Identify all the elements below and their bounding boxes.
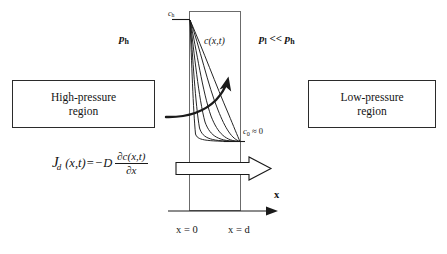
equation-numerator: ∂c(x,t) bbox=[115, 150, 147, 164]
low-pressure-region-text: Low-pressure region bbox=[340, 90, 403, 118]
equation-coefficient: −D bbox=[95, 156, 112, 170]
low-pressure-region-box: Low-pressure region bbox=[308, 80, 436, 128]
high-pressure-region-text: High-pressure region bbox=[51, 90, 116, 118]
equation-arguments: (x,t) bbox=[65, 156, 85, 170]
label-high-pressure-symbol: ph bbox=[119, 32, 129, 47]
flux-block-arrow-outline bbox=[176, 157, 271, 180]
c0-value: 0 bbox=[259, 126, 263, 136]
ch-subscript: h bbox=[172, 12, 175, 18]
time-arrow-head bbox=[220, 77, 232, 92]
equation-equals: = bbox=[87, 156, 94, 170]
label-concentration-profile: c(x,t) bbox=[204, 35, 225, 46]
label-x-axis-name: x bbox=[274, 189, 279, 201]
label-axis-tick-xd: x = d bbox=[228, 224, 250, 236]
diffusion-diagram: High-pressure region Low-pressure region… bbox=[0, 0, 447, 254]
equation-denominator: ∂x bbox=[124, 164, 138, 177]
label-low-pressure-relation: pl << ph bbox=[259, 32, 295, 47]
x-axis-arrowhead bbox=[266, 207, 278, 216]
low-pressure-line2: region bbox=[357, 105, 386, 117]
ph-subscript: h bbox=[125, 37, 129, 46]
high-pressure-region-box: High-pressure region bbox=[12, 80, 155, 128]
flux-equation: Jd(x,t) = −D ∂c(x,t) ∂x bbox=[52, 150, 148, 177]
label-surface-concentration-high: ch bbox=[168, 10, 174, 19]
high-pressure-line2: region bbox=[69, 105, 98, 117]
label-surface-concentration-low: c0 ≈ 0 bbox=[243, 127, 263, 137]
label-axis-tick-x0: x = 0 bbox=[176, 224, 198, 236]
flux-block-arrow bbox=[176, 157, 271, 180]
pl-subscript: l bbox=[265, 37, 267, 46]
equation-fraction: ∂c(x,t) ∂x bbox=[115, 150, 147, 177]
high-pressure-line1: High-pressure bbox=[51, 91, 116, 103]
c0-relation: ≈ bbox=[252, 126, 257, 136]
equation-J-subscript: d bbox=[57, 162, 62, 172]
pressure-relation-operator: << bbox=[269, 32, 282, 44]
c0-subscript: 0 bbox=[247, 131, 250, 137]
ph2-subscript: h bbox=[290, 37, 294, 46]
low-pressure-line1: Low-pressure bbox=[340, 91, 403, 103]
